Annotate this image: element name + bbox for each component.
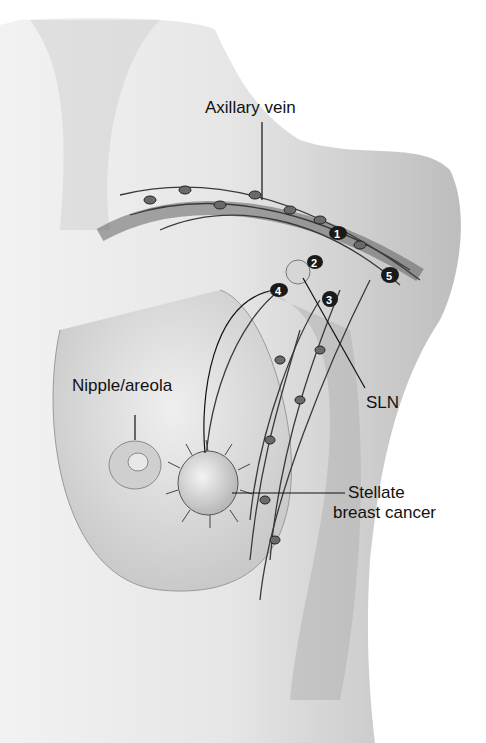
diagram-canvas: 1 2 3 4 5 Axillary vein Nipple/areola SL…: [0, 0, 486, 743]
node-number-3: 3: [326, 290, 332, 310]
label-axillary-vein: Axillary vein: [205, 98, 296, 118]
sentinel-lymph-node: [286, 260, 310, 284]
label-breast-cancer: breast cancer: [333, 503, 436, 523]
node-number-4: 4: [275, 281, 281, 301]
label-stellate: Stellate: [348, 483, 405, 503]
node-number-5: 5: [386, 266, 392, 286]
label-sln: SLN: [366, 393, 399, 413]
label-nipple-areola: Nipple/areola: [72, 376, 172, 396]
node-number-2: 2: [311, 253, 317, 273]
node-number-1: 1: [334, 224, 340, 244]
